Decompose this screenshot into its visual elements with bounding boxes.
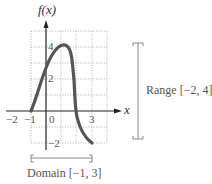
function-curve xyxy=(31,45,92,143)
y-axis-arrow-icon xyxy=(44,20,49,28)
tick-y-neg2: −2 xyxy=(48,137,60,149)
x-axis-arrow-icon xyxy=(114,109,122,114)
tick-x-neg2: −2 xyxy=(6,113,18,125)
tick-y-4: 4 xyxy=(48,40,54,52)
tick-y-2: 2 xyxy=(48,72,54,84)
tick-x-0: 0 xyxy=(49,113,55,125)
tick-x-neg1: −1 xyxy=(24,113,36,125)
domain-bracket xyxy=(31,155,92,162)
range-bracket xyxy=(133,43,143,139)
tick-x-3: 3 xyxy=(89,113,95,125)
y-axis-label: f(x) xyxy=(38,2,56,18)
x-axis-label: x xyxy=(124,102,130,118)
domain-label: Domain [−1, 3] xyxy=(27,166,101,181)
range-label: Range [−2, 4] xyxy=(146,83,212,98)
